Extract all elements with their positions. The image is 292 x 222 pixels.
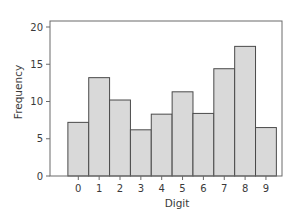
bar-digit-2	[110, 100, 131, 176]
bar-digit-0	[68, 122, 89, 176]
x-tick-label: 3	[138, 183, 144, 194]
x-tick-label: 6	[200, 183, 206, 194]
y-tick-label: 20	[30, 22, 43, 33]
x-tick-label: 7	[221, 183, 227, 194]
y-axis: 05101520	[30, 22, 50, 182]
x-tick-label: 8	[242, 183, 248, 194]
y-tick-label: 5	[37, 133, 43, 144]
y-axis-title: Frequency	[12, 65, 24, 119]
bar-digit-4	[151, 114, 172, 176]
histogram-chart: 05101520 0123456789 Digit Frequency	[0, 0, 292, 222]
x-axis-title: Digit	[165, 197, 190, 209]
bar-digit-1	[89, 78, 110, 176]
bar-digit-7	[214, 69, 235, 176]
bar-digit-6	[193, 113, 214, 176]
x-tick-label: 9	[263, 183, 269, 194]
x-tick-label: 0	[75, 183, 81, 194]
y-tick-label: 10	[30, 96, 43, 107]
bar-digit-8	[235, 46, 256, 176]
x-axis: 0123456789	[75, 176, 269, 194]
y-tick-label: 15	[30, 59, 43, 70]
x-tick-label: 5	[179, 183, 185, 194]
bar-digit-3	[130, 130, 151, 176]
bar-series	[68, 46, 276, 176]
bar-digit-9	[256, 128, 277, 176]
x-tick-label: 4	[159, 183, 165, 194]
x-tick-label: 1	[96, 183, 102, 194]
y-tick-label: 0	[37, 171, 43, 182]
x-tick-label: 2	[117, 183, 123, 194]
bar-digit-5	[172, 92, 193, 176]
